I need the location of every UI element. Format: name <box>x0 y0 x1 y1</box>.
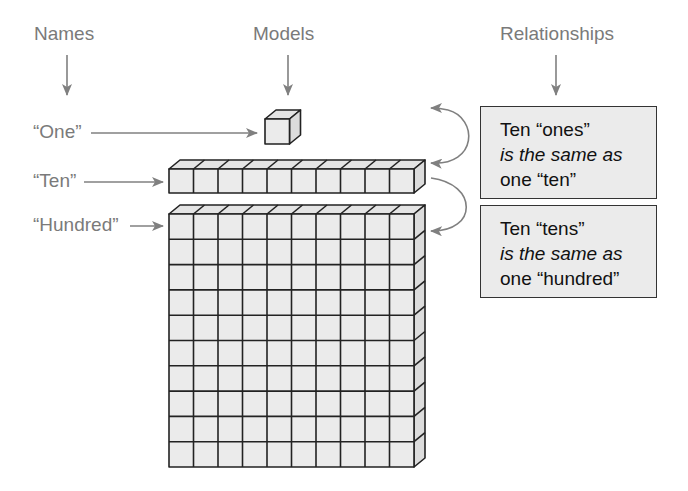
label-hundred: “Hundred” <box>33 214 119 236</box>
label-ten: “Ten” <box>33 170 76 192</box>
relationship-curves <box>431 108 469 231</box>
label-one: “One” <box>33 121 82 143</box>
relationship-line: one “ten” <box>500 167 656 192</box>
relationship-box-ones-ten: Ten “ones” is the same as one “ten” <box>480 106 657 199</box>
relationship-line: Ten “ones” <box>500 117 656 142</box>
relationship-line: is the same as <box>500 142 656 167</box>
relation-arrow-ones-to-ten <box>470 110 478 112</box>
relationship-line: Ten “tens” <box>500 216 656 241</box>
relationship-line: one “hundred” <box>500 266 656 291</box>
header-relationships: Relationships <box>500 23 614 45</box>
relationship-box-tens-hundred: Ten “tens” is the same as one “hundred” <box>480 205 657 298</box>
relationship-line: is the same as <box>500 241 656 266</box>
base-ten-blocks <box>169 110 425 467</box>
header-models: Models <box>253 23 314 45</box>
header-names: Names <box>34 23 94 45</box>
